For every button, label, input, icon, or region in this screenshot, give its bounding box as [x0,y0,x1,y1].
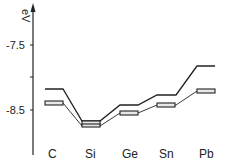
category-label-c: C [48,147,57,161]
energy-level-chart: eV -7.5 -8.5 C Si Ge Sn Pb [0,0,228,166]
series-lower-level-boxes [45,89,215,127]
y-axis-unit-label: eV [20,9,32,23]
level-box-c [45,101,63,105]
y-tick-label: -8.5 [6,104,25,116]
category-label-pb: Pb [199,147,214,161]
level-box-ge [120,111,138,115]
category-label-si: Si [85,147,96,161]
level-box-pb [197,89,215,93]
category-label-ge: Ge [122,147,138,161]
category-label-sn: Sn [159,147,174,161]
level-box-si-lower [82,124,100,127]
level-box-sn [157,103,175,107]
y-tick-label: -7.5 [6,39,25,51]
